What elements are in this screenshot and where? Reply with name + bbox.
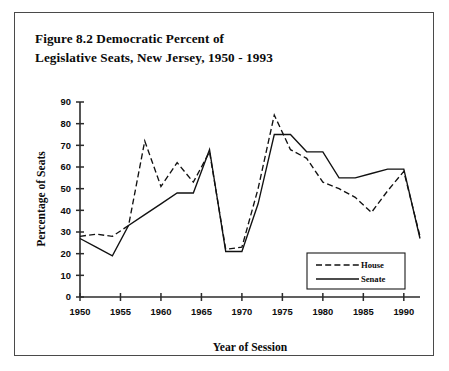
- y-tick-label: 10: [61, 270, 71, 281]
- legend-box: [307, 253, 405, 289]
- y-tick-label: 80: [61, 118, 71, 129]
- y-tick-label: 90: [61, 96, 71, 107]
- line-chart: 0102030405060708090 Percentage of Seats …: [15, 13, 435, 357]
- y-axis-title: Percentage of Seats: [35, 151, 48, 247]
- legend-label-house: House: [361, 260, 384, 270]
- y-tick-label: 70: [61, 140, 71, 151]
- data-series-group: [80, 115, 420, 256]
- x-tick-label: 1970: [231, 306, 252, 317]
- x-tick-label: 1975: [272, 306, 293, 317]
- x-tick-label: 1950: [70, 306, 91, 317]
- x-tick-label: 1990: [393, 306, 414, 317]
- chart-plot-area: 0102030405060708090 Percentage of Seats …: [15, 13, 435, 357]
- y-axis: 0102030405060708090 Percentage of Seats: [35, 96, 84, 302]
- x-tick-label: 1965: [191, 306, 212, 317]
- y-tick-label: 0: [66, 291, 71, 302]
- y-tick-label: 40: [61, 205, 71, 216]
- x-tick-label: 1980: [312, 306, 333, 317]
- x-tick-label: 1960: [151, 306, 172, 317]
- x-tick-label: 1985: [353, 306, 374, 317]
- y-tick-label: 50: [61, 183, 71, 194]
- figure-frame: Figure 8.2 Democratic Percent of Legisla…: [14, 12, 434, 356]
- y-tick-label: 60: [61, 161, 71, 172]
- x-axis-tick-labels: 195019551960196519701975198019851990: [70, 306, 415, 317]
- x-axis-title: Year of Session: [213, 341, 288, 354]
- x-axis: 195019551960196519701975198019851990 Yea…: [70, 293, 420, 354]
- chart-legend: HouseSenate: [307, 253, 405, 289]
- x-tick-label: 1955: [110, 306, 131, 317]
- y-tick-label: 20: [61, 248, 71, 259]
- series-line-senate: [80, 135, 420, 256]
- legend-label-senate: Senate: [361, 274, 386, 284]
- y-tick-label: 30: [61, 226, 71, 237]
- y-axis-tick-labels: 0102030405060708090: [61, 96, 71, 302]
